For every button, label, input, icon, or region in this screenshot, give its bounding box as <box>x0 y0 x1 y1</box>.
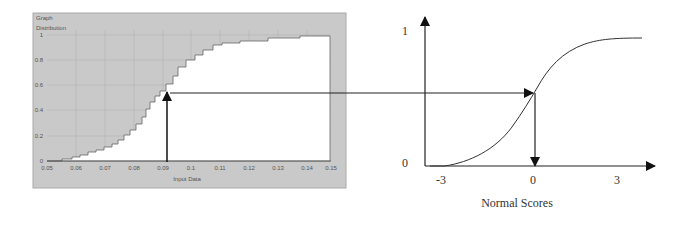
left-y-tick: 0.8 <box>35 57 44 63</box>
graph-title: Graph <box>36 15 53 21</box>
left-x-tick: 0.08 <box>128 165 140 171</box>
left-x-tick: 0.1 <box>187 165 196 171</box>
graph-subtitle: Distribution <box>36 25 66 31</box>
right-x-tick: -3 <box>436 173 446 187</box>
left-y-tick: 0.6 <box>35 82 44 88</box>
left-x-tick: 0.07 <box>99 165 111 171</box>
left-x-tick: 0.09 <box>157 165 169 171</box>
left-x-tick: 0.15 <box>325 165 337 171</box>
normal-score-transform-diagram: Graph Distribution 1 0.8 0.6 0.4 0.2 0 0… <box>0 0 689 227</box>
left-x-tick: 0.13 <box>272 165 284 171</box>
left-x-tick: 0.14 <box>301 165 313 171</box>
right-x-tick: 3 <box>614 173 620 187</box>
normal-cdf-curve <box>430 38 642 166</box>
left-x-axis-label: Input Data <box>173 176 201 182</box>
right-x-axis-label: Normal Scores <box>481 196 553 210</box>
graph-distribution-panel: Graph Distribution 1 0.8 0.6 0.4 0.2 0 0… <box>33 13 346 188</box>
left-x-tick: 0.05 <box>41 165 53 171</box>
right-y-tick: 1 <box>402 24 408 38</box>
right-x-tick: 0 <box>530 173 536 187</box>
left-x-tick: 0.11 <box>214 165 226 171</box>
left-x-tick: 0.12 <box>243 165 255 171</box>
left-y-tick: 0.2 <box>35 133 44 139</box>
normal-cdf-panel: 1 0 -3 0 3 Normal Scores <box>402 17 655 210</box>
left-y-tick: 0.4 <box>35 107 44 113</box>
left-x-tick: 0.06 <box>70 165 82 171</box>
right-y-tick: 0 <box>402 156 408 170</box>
